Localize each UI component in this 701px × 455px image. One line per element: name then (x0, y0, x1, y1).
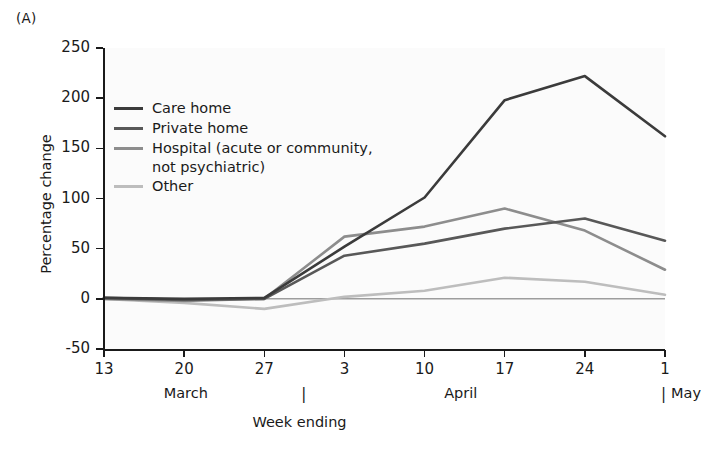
y-tick-mark (96, 298, 103, 300)
legend-color-swatch (114, 107, 143, 110)
x-tick-mark (183, 350, 185, 357)
x-tick-mark (584, 350, 586, 357)
legend-label: Other (152, 177, 193, 196)
y-tick-mark (96, 198, 103, 200)
legend-color-swatch (114, 147, 143, 150)
y-axis-spine (103, 48, 105, 350)
legend-color-swatch (114, 185, 143, 188)
series-line (104, 278, 665, 309)
legend-label: Hospital (acute or community, not psychi… (152, 139, 373, 176)
y-tick-label: 50 (18, 239, 90, 257)
x-axis-title: Week ending (0, 414, 691, 430)
y-tick-mark (96, 47, 103, 49)
legend-item: Other (114, 177, 404, 196)
y-tick-label: -50 (18, 339, 90, 357)
x-tick-mark (103, 350, 105, 357)
x-tick-label: 1 (635, 360, 695, 378)
x-tick-label: 10 (395, 360, 455, 378)
y-tick-mark (96, 97, 103, 99)
y-tick-label: 150 (18, 138, 90, 156)
x-tick-label: 13 (74, 360, 134, 378)
x-tick-label: 24 (555, 360, 615, 378)
x-tick-label: 20 (154, 360, 214, 378)
month-separator: | (661, 385, 666, 403)
y-tick-label: 0 (18, 289, 90, 307)
x-tick-mark (424, 350, 426, 357)
x-tick-mark (504, 350, 506, 357)
panel-label: (A) (16, 10, 36, 26)
y-tick-label: 250 (18, 38, 90, 56)
month-label: March (164, 385, 208, 401)
x-tick-mark (344, 350, 346, 357)
y-tick-mark (96, 148, 103, 150)
legend-label: Care home (152, 99, 231, 118)
month-label: May (671, 385, 701, 401)
y-tick-label: 100 (18, 189, 90, 207)
x-tick-mark (664, 350, 666, 357)
legend-item: Hospital (acute or community, not psychi… (114, 139, 404, 176)
x-tick-label: 27 (234, 360, 294, 378)
legend-label: Private home (152, 119, 248, 138)
legend-item: Care home (114, 99, 404, 118)
x-tick-mark (264, 350, 266, 357)
month-separator: | (301, 385, 306, 403)
month-label: April (444, 385, 477, 401)
plot-area (104, 48, 665, 349)
x-tick-label: 17 (475, 360, 535, 378)
legend-color-swatch (114, 127, 143, 130)
y-tick-mark (96, 348, 103, 350)
legend-item: Private home (114, 119, 404, 138)
x-axis-spine (103, 349, 665, 351)
x-axis-title-text: Week ending (252, 414, 346, 430)
line-chart-svg (104, 48, 665, 349)
y-tick-label: 200 (18, 88, 90, 106)
y-tick-mark (96, 248, 103, 250)
chart-legend: Care homePrivate homeHospital (acute or … (114, 99, 404, 197)
x-tick-label: 3 (314, 360, 374, 378)
